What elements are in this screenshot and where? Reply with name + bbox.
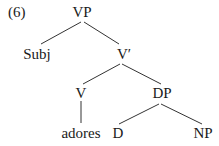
node-v: V xyxy=(76,86,87,101)
node-d: D xyxy=(113,126,124,141)
tree-edges xyxy=(0,0,219,146)
edge-vp-subj xyxy=(41,22,81,44)
edge-vp-vbar xyxy=(84,22,119,44)
node-vp: VP xyxy=(72,5,91,20)
node-dp: DP xyxy=(152,86,171,101)
node-np: NP xyxy=(193,126,212,141)
edge-dp-np xyxy=(161,104,202,124)
node-subj: Subj xyxy=(23,47,51,62)
edge-vbar-v xyxy=(83,64,120,84)
node-vbar: V′ xyxy=(117,47,131,62)
edge-dp-d xyxy=(119,104,159,124)
node-adores: adores xyxy=(61,126,100,141)
example-number: (6) xyxy=(8,5,26,20)
edge-vbar-dp xyxy=(122,64,161,84)
